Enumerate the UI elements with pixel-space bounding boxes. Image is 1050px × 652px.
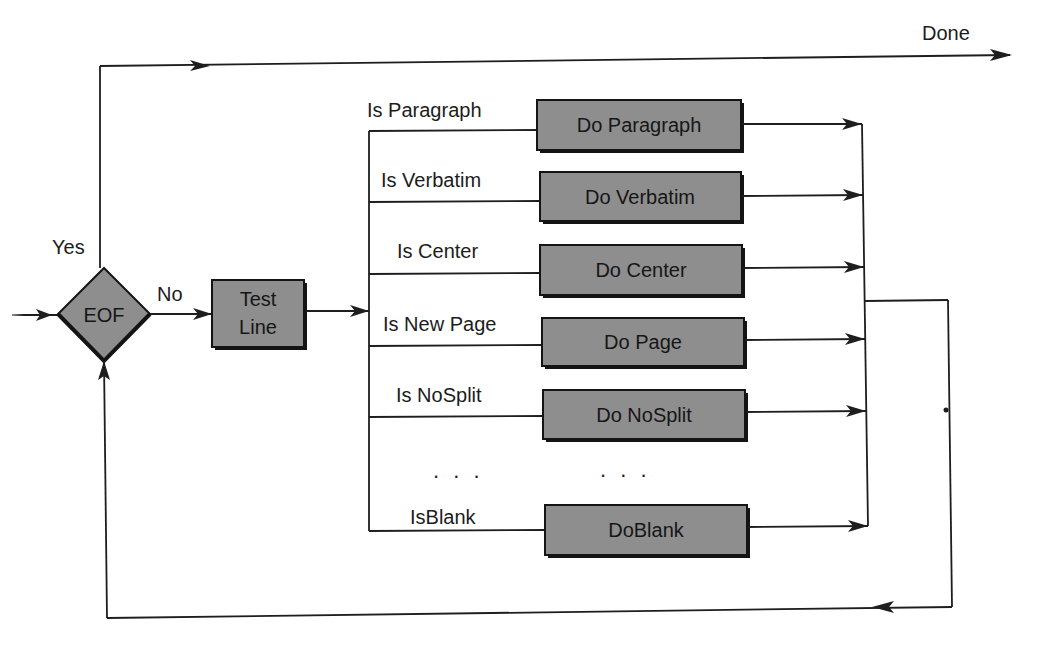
action-box-center: Do Center (540, 245, 745, 298)
yes-connector (100, 49, 1012, 268)
condition-label: Is NoSplit (396, 384, 482, 406)
no-connector (150, 308, 212, 320)
action-box-paragraph: Do Paragraph (537, 100, 744, 153)
condition-label: Is Center (397, 240, 478, 262)
flowchart: EOF Yes Done No Test Line Is Paragraph I (0, 0, 1050, 652)
eof-decision: EOF (58, 268, 150, 361)
condition-label: Is New Page (383, 313, 496, 335)
action-box-blank: DoBlank (545, 505, 750, 558)
test-line-label-2: Line (239, 316, 277, 338)
condition-ellipsis: . . . (433, 458, 484, 483)
action-label: Do Center (595, 259, 686, 281)
test-to-bus-connector (306, 305, 369, 317)
action-box-nosplit: Do NoSplit (543, 390, 748, 442)
condition-label: Is Paragraph (367, 99, 482, 121)
action-box-page: Do Page (542, 318, 747, 369)
test-line-label-1: Test (240, 288, 277, 310)
done-label: Done (922, 22, 970, 44)
action-label: DoBlank (608, 519, 685, 541)
merge-connectors (742, 118, 868, 532)
test-line-box: Test Line (212, 280, 307, 350)
no-label: No (157, 283, 183, 305)
action-label: Do Paragraph (577, 114, 702, 136)
action-label: Do Verbatim (585, 186, 695, 208)
entry-connector (0, 300, 58, 330)
action-label: Do NoSplit (596, 404, 692, 426)
action-label: Do Page (604, 331, 682, 353)
condition-label: Is Verbatim (381, 169, 481, 191)
condition-label: IsBlank (410, 506, 477, 528)
action-ellipsis: . . . (600, 457, 651, 482)
eof-label: EOF (83, 304, 124, 326)
yes-label: Yes (52, 236, 85, 258)
action-box-verbatim: Do Verbatim (540, 172, 744, 224)
